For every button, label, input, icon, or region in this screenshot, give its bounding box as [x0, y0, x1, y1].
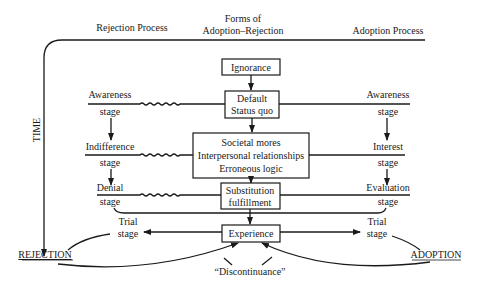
- adoption-trial-label: Trial: [367, 216, 386, 227]
- fulfillment-text: fulfillment: [229, 197, 272, 208]
- default-text: Default: [237, 93, 267, 104]
- ignorance-text: Ignorance: [231, 62, 272, 73]
- indifference-stage: stage: [100, 157, 121, 168]
- rejection-awareness-label: Awareness: [89, 89, 132, 100]
- adoption-rejection-label: Adoption–Rejection: [202, 25, 283, 36]
- indifference-label: Indifference: [86, 141, 135, 152]
- adoption-rejection-diagram: Rejection Process Forms of Adoption–Reje…: [0, 0, 484, 291]
- rejection-trial-curve: [68, 234, 110, 250]
- rejection-awareness-line: [88, 103, 225, 105]
- experience-text: Experience: [229, 228, 275, 239]
- adoption-outcome: ADOPTION: [410, 249, 461, 260]
- adoption-awareness-label: Awareness: [367, 89, 410, 100]
- discontinuance-pointer-right: [262, 257, 272, 265]
- forms-of-label: Forms of: [225, 13, 262, 24]
- rejection-awareness-stage: stage: [100, 106, 121, 117]
- interest-label: Interest: [373, 141, 403, 152]
- time-label: TIME: [31, 118, 42, 142]
- adoption-trial-stage: stage: [367, 228, 388, 239]
- status-quo-text: Status quo: [231, 105, 273, 116]
- erroneous-logic-text: Erroneous logic: [219, 163, 283, 174]
- rejection-outcome: REJECTION: [18, 249, 71, 260]
- discontinuance-label: “Discontinuance”: [214, 266, 285, 277]
- denial-label: Denial: [97, 182, 124, 193]
- substitution-text: Substitution: [226, 185, 274, 196]
- evaluation-stage: stage: [378, 196, 399, 207]
- denial-stage: stage: [100, 196, 121, 207]
- adoption-process-label: Adoption Process: [353, 25, 424, 36]
- rejection-process-label: Rejection Process: [96, 22, 167, 33]
- adoption-awareness-stage: stage: [378, 106, 399, 117]
- interpersonal-text: Interpersonal relationships: [198, 150, 304, 161]
- interest-stage: stage: [378, 157, 399, 168]
- rejection-trial-label: Trial: [118, 216, 137, 227]
- adoption-trial-curve: [392, 236, 420, 250]
- adoption-discontinuance-curve: [262, 243, 430, 266]
- indifference-line: [85, 154, 193, 156]
- evaluation-label: Evaluation: [366, 182, 409, 193]
- discontinuance-pointer-left: [224, 258, 232, 265]
- societal-mores-text: Societal mores: [221, 137, 280, 148]
- rejection-discontinuance-curve: [58, 243, 238, 267]
- rejection-trial-stage: stage: [118, 228, 139, 239]
